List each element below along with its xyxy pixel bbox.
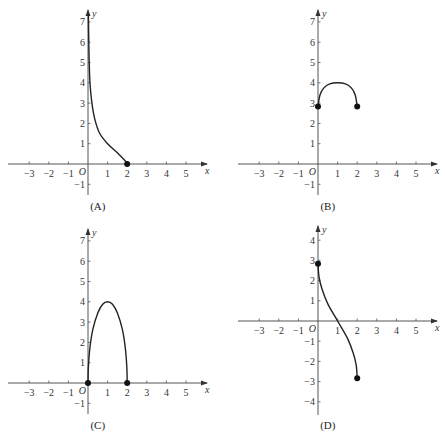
x-tick-label: −3 (254, 325, 265, 336)
y-tick-label: −4 (304, 396, 315, 407)
x-tick-label: 1 (335, 168, 340, 179)
x-tick-label: 2 (125, 168, 130, 179)
x-tick-label: −1 (293, 325, 304, 336)
y-tick-label: 5 (310, 57, 315, 68)
x-tick-label: 5 (414, 168, 419, 179)
y-tick-label: 2 (80, 118, 85, 129)
y-tick-label: 3 (310, 255, 315, 266)
x-tick-label: 2 (125, 387, 130, 398)
endpoint-dot (124, 380, 130, 386)
y-tick-label: 4 (310, 77, 315, 88)
x-axis-label: x (204, 384, 210, 395)
y-axis-label: y (91, 8, 97, 19)
y-tick-label: 1 (80, 357, 85, 368)
x-tick-label: −3 (24, 387, 35, 398)
panel-caption: (B) (320, 200, 335, 213)
y-axis-arrow-icon (316, 225, 321, 232)
function-curve (88, 302, 127, 383)
y-tick-label: 5 (80, 276, 85, 287)
panel-caption: (A) (90, 200, 106, 213)
function-graphs-figure: −3−2−112345−11234567xyO(A)−3−2−112345−11… (0, 0, 445, 438)
y-tick-label: −2 (304, 356, 315, 367)
y-tick-label: 3 (80, 317, 85, 328)
x-tick-label: 4 (394, 325, 399, 336)
endpoint-dot (354, 104, 360, 110)
graph-panel-d: −3−2−112345−4−3−2−11234xyO(D) (238, 224, 440, 432)
x-tick-label: 4 (164, 168, 169, 179)
x-tick-label: 5 (184, 387, 189, 398)
endpoint-dot (85, 380, 91, 386)
x-tick-label: −1 (293, 168, 304, 179)
y-tick-label: 2 (310, 275, 315, 286)
x-tick-label: −1 (63, 168, 74, 179)
y-tick-label: 6 (310, 37, 315, 48)
x-tick-label: 4 (164, 387, 169, 398)
x-tick-label: 5 (414, 325, 419, 336)
y-tick-label: −1 (304, 179, 315, 190)
origin-label: O (79, 385, 86, 396)
x-tick-label: 3 (144, 387, 149, 398)
x-axis-label: x (204, 165, 210, 176)
x-tick-label: −3 (254, 168, 265, 179)
y-tick-label: 5 (80, 57, 85, 68)
origin-label: O (309, 166, 316, 177)
y-axis-label: y (91, 227, 97, 238)
x-tick-label: 5 (184, 168, 189, 179)
y-tick-label: 4 (80, 77, 85, 88)
graph-panel-c: −3−2−112345−11234567xyO(C) (8, 227, 210, 432)
endpoint-dot (315, 104, 321, 110)
y-tick-label: −1 (74, 179, 85, 190)
x-tick-label: 2 (355, 325, 360, 336)
y-tick-label: −3 (304, 376, 315, 387)
x-tick-label: 3 (374, 168, 379, 179)
x-tick-label: 3 (374, 325, 379, 336)
x-tick-label: 1 (105, 387, 110, 398)
x-tick-label: 1 (335, 325, 340, 336)
endpoint-dot (354, 375, 360, 381)
x-tick-label: −2 (43, 168, 54, 179)
origin-label: O (79, 166, 86, 177)
x-tick-label: −1 (63, 387, 74, 398)
x-axis-label: x (434, 322, 440, 333)
x-tick-label: −2 (43, 387, 54, 398)
y-tick-label: 4 (310, 235, 315, 246)
y-tick-label: 7 (80, 235, 85, 246)
function-curve (88, 14, 127, 163)
y-tick-label: 3 (80, 98, 85, 109)
panel-caption: (C) (90, 419, 105, 432)
graph-panel-b: −3−2−112345−11234567xyO(B) (238, 8, 440, 213)
function-curve (318, 83, 357, 107)
y-tick-label: 3 (310, 98, 315, 109)
y-tick-label: 7 (80, 16, 85, 27)
y-tick-label: 1 (310, 295, 315, 306)
y-axis-arrow-icon (86, 228, 91, 235)
x-tick-label: 2 (355, 168, 360, 179)
x-tick-label: −2 (273, 325, 284, 336)
x-tick-label: 1 (105, 168, 110, 179)
y-tick-label: 1 (310, 138, 315, 149)
x-tick-label: 3 (144, 168, 149, 179)
y-tick-label: 4 (80, 296, 85, 307)
y-axis-label: y (321, 224, 327, 235)
y-tick-label: −1 (74, 398, 85, 409)
y-tick-label: 6 (80, 256, 85, 267)
graph-panel-a: −3−2−112345−11234567xyO(A) (8, 8, 210, 213)
y-tick-label: 1 (80, 138, 85, 149)
x-axis-label: x (434, 165, 440, 176)
endpoint-dot (315, 261, 321, 267)
x-tick-label: 4 (394, 168, 399, 179)
x-tick-label: −3 (24, 168, 35, 179)
y-tick-label: 2 (310, 118, 315, 129)
y-tick-label: −1 (304, 336, 315, 347)
x-tick-label: −2 (273, 168, 284, 179)
y-axis-arrow-icon (316, 9, 321, 16)
origin-label: O (309, 323, 316, 334)
y-tick-label: 6 (80, 37, 85, 48)
y-tick-label: 7 (310, 16, 315, 27)
panel-caption: (D) (320, 419, 336, 432)
y-tick-label: 2 (80, 337, 85, 348)
endpoint-dot (124, 161, 130, 167)
y-axis-label: y (321, 8, 327, 19)
